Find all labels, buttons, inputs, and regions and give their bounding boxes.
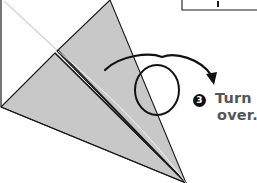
step-text-line2: over. (217, 107, 257, 123)
previous-step-box (182, 0, 257, 10)
step-text-line1: Turn (215, 90, 252, 106)
faint-crease-line (4, 1, 58, 51)
step-instruction: 3 Turn over. (192, 90, 257, 130)
step-number-badge: 3 (193, 94, 206, 107)
